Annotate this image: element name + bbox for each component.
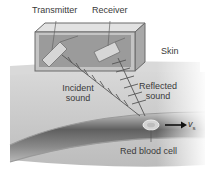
receiver-label: Receiver [92,5,128,15]
incident-label-line2: sound [58,93,98,103]
transmitter-label: Transmitter [32,5,77,15]
doppler-ultrasound-diagram: Transmitter Receiver Skin Incident sound… [0,0,209,171]
reflected-label-line1: Reflected [136,81,180,91]
incident-label-line1: Incident [58,83,98,93]
velocity-subscript: s [193,125,196,131]
skin-label: Skin [161,46,179,56]
reflected-sound-label: Reflected sound [136,81,180,101]
reflected-label-line2: sound [136,91,180,101]
velocity-label: vs [188,119,196,133]
incident-sound-label: Incident sound [58,83,98,103]
red-blood-cell-label: Red blood cell [120,146,177,156]
